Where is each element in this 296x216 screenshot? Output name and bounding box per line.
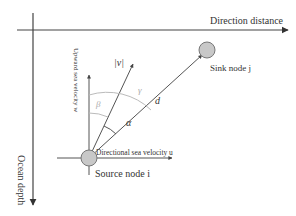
gamma-label: γ: [138, 85, 142, 95]
upward-velocity-label: Upward sea velocity w: [72, 48, 80, 113]
vertical-axis-label: Ocean depth: [16, 155, 27, 205]
distance-label: d: [155, 95, 161, 106]
source-node-label: Source node i: [95, 168, 150, 179]
beta-label: β: [95, 99, 101, 109]
distance-line: [89, 55, 202, 158]
sink-node-label: Sink node j: [210, 63, 251, 73]
alpha-arc: [104, 126, 116, 134]
velocity-magnitude-vector: [89, 64, 133, 158]
velocity-magnitude-label: |v|: [114, 57, 124, 68]
beta-arc: [89, 113, 108, 117]
velocity-diagram: Direction distance Ocean depth Upward se…: [0, 0, 296, 216]
source-node: [81, 150, 97, 166]
horizontal-axis-label: Direction distance: [210, 15, 284, 26]
directional-velocity-label: Directional sea velocity u: [96, 148, 173, 157]
sink-node: [199, 42, 215, 58]
alpha-label: α: [126, 117, 132, 128]
